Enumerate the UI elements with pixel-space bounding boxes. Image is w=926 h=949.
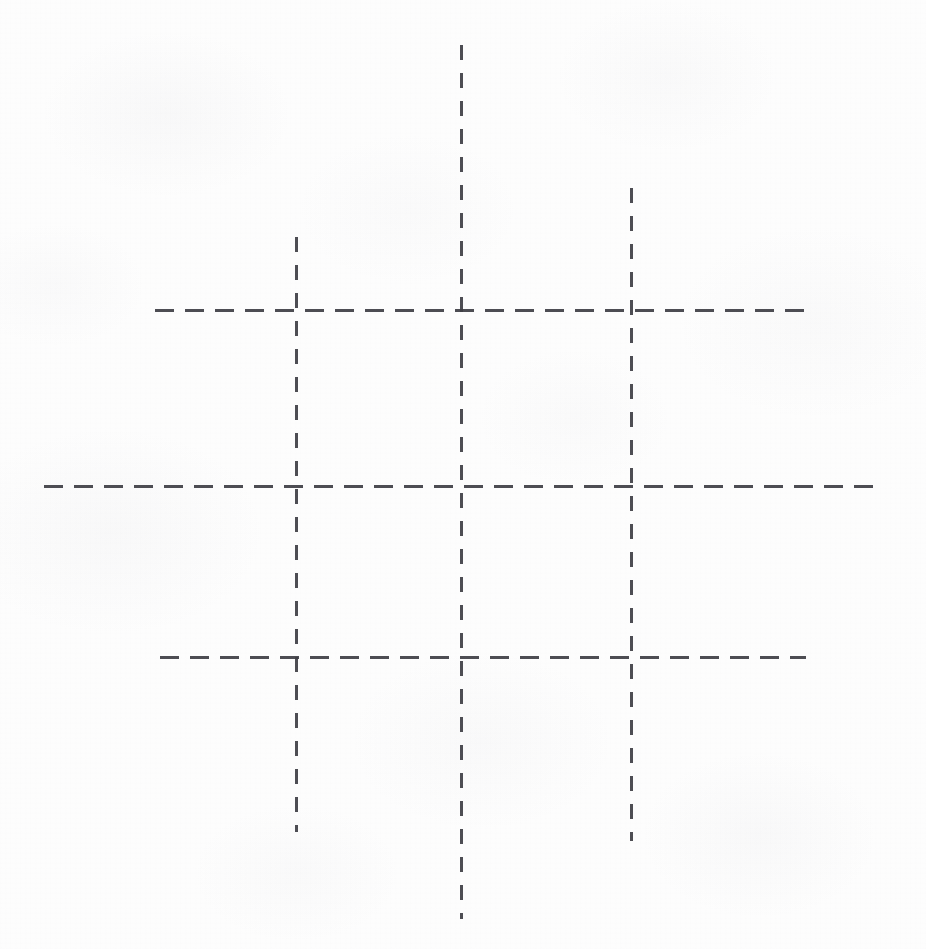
grid-line-vertical-center: [460, 45, 463, 919]
paper-grain-overlay: [0, 0, 926, 949]
grid-line-vertical-right: [630, 188, 633, 841]
grid-line-vertical-left: [295, 237, 298, 832]
grid-line-horizontal-middle: [44, 485, 881, 488]
scanned-page-canvas: [0, 0, 926, 949]
grid-line-horizontal-bottom: [160, 656, 806, 659]
grid-line-horizontal-top: [155, 309, 804, 312]
